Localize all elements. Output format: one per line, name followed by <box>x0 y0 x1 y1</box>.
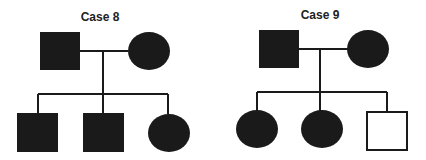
pedigree-title: Case 9 <box>301 8 340 22</box>
pedigree-title: Case 8 <box>81 10 120 24</box>
pedigree-figure: Case 8 Case 9 <box>0 0 426 160</box>
affected-male-child <box>17 113 58 152</box>
affected-male-father <box>40 32 80 70</box>
pedigree-case-9: Case 9 <box>236 8 407 150</box>
pedigree-case-8: Case 8 <box>17 10 190 152</box>
affected-male-child <box>83 113 124 152</box>
affected-female-child <box>148 114 190 152</box>
affected-female-mother <box>128 32 170 70</box>
affected-female-mother <box>347 30 389 68</box>
affected-female-child <box>301 110 343 148</box>
affected-male-father <box>259 30 299 68</box>
affected-female-child <box>236 110 278 148</box>
unaffected-male-child <box>367 112 407 150</box>
